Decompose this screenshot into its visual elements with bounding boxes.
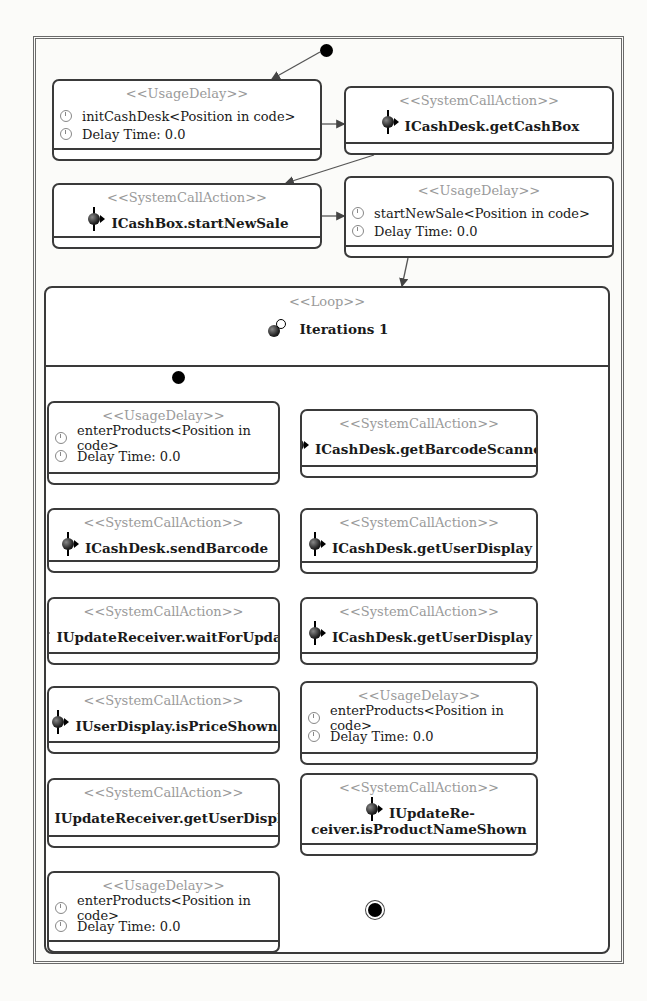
system-call-icon <box>49 710 71 734</box>
system-call-get-user-display-1[interactable]: <<SystemCallAction>> ICashDesk.getUserDi… <box>300 508 538 574</box>
loop-iterations: Iterations 1 <box>300 321 389 337</box>
usage-delay-start-new-sale[interactable]: <<UsageDelay>> startNewSale<Position in … <box>344 176 614 258</box>
call-name: ICashDesk.getUserDisplay <box>332 540 532 556</box>
system-call-icon <box>379 110 401 134</box>
stereotype-label: <<UsageDelay>> <box>54 86 320 101</box>
stereotype-label: <<SystemCallAction>> <box>54 190 320 205</box>
stereotype-label: <<SystemCallAction>> <box>302 515 536 530</box>
system-call-icon <box>47 621 52 645</box>
system-call-icon <box>85 207 107 231</box>
clock-icon <box>352 207 364 219</box>
system-call-icon <box>306 532 328 556</box>
clock-icon <box>55 902 67 914</box>
loop-initial-node <box>172 371 185 384</box>
usage-name: initCashDesk<Position in code> <box>82 109 295 124</box>
call-name: IUpdateReceiver.waitForUpdate <box>56 629 280 645</box>
system-call-icon <box>47 802 50 826</box>
system-call-start-new-sale[interactable]: <<SystemCallAction>> ICashBox.startNewSa… <box>52 183 322 249</box>
system-call-wait-for-update[interactable]: <<SystemCallAction>> IUpdateReceiver.wai… <box>47 597 280 665</box>
system-call-icon <box>300 433 311 457</box>
stereotype-label: <<UsageDelay>> <box>49 408 278 423</box>
usage-delay-enter-products-3[interactable]: <<UsageDelay>> enterProducts<Position in… <box>47 871 280 953</box>
system-call-get-cash-box[interactable]: <<SystemCallAction>> ICashDesk.getCashBo… <box>344 86 614 155</box>
clock-icon <box>308 730 320 742</box>
system-call-icon <box>363 797 385 821</box>
delay-time: Delay Time: 0.0 <box>77 919 181 934</box>
clock-icon <box>308 712 320 724</box>
stereotype-label: <<SystemCallAction>> <box>302 780 536 795</box>
clock-icon <box>55 432 67 444</box>
call-name: ICashBox.startNewSale <box>111 215 288 231</box>
stereotype-label: <<SystemCallAction>> <box>49 785 278 800</box>
stereotype-label: <<SystemCallAction>> <box>302 416 536 431</box>
call-name: ICashDesk.getCashBox <box>405 118 580 134</box>
call-name-line2: ceiver.isProductNameShown <box>302 821 536 837</box>
clock-icon <box>60 110 72 122</box>
system-call-icon <box>306 621 328 645</box>
call-name: IUpdateReceiver.getUserDisplay <box>54 810 280 826</box>
delay-time: Delay Time: 0.0 <box>374 224 478 239</box>
clock-icon <box>60 128 72 140</box>
stereotype-label: <<SystemCallAction>> <box>346 93 612 108</box>
usage-delay-enter-products-2[interactable]: <<UsageDelay>> enterProducts<Position in… <box>300 681 538 765</box>
system-call-update-receiver-get-user-display[interactable]: <<SystemCallAction>> IUpdateReceiver.get… <box>47 778 280 848</box>
call-name-line1: IUpdateRe- <box>389 805 475 821</box>
stereotype-label: <<UsageDelay>> <box>346 183 612 198</box>
call-name: ICashDesk.getBarcodeScanner <box>315 441 538 457</box>
delay-time: Delay Time: 0.0 <box>77 449 181 464</box>
system-call-icon <box>59 532 81 556</box>
system-call-is-price-shown[interactable]: <<SystemCallAction>> IUserDisplay.isPric… <box>47 686 280 754</box>
call-name: IUserDisplay.isPriceShown <box>75 718 277 734</box>
stereotype-label: <<UsageDelay>> <box>302 688 536 703</box>
loop-icon <box>266 319 288 339</box>
call-name: ICashDesk.getUserDisplay <box>332 629 532 645</box>
system-call-is-product-name-shown[interactable]: <<SystemCallAction>> IUpdateRe- ceiver.i… <box>300 773 538 856</box>
clock-icon <box>55 450 67 462</box>
usage-name: startNewSale<Position in code> <box>374 206 590 221</box>
system-call-get-user-display-2[interactable]: <<SystemCallAction>> ICashDesk.getUserDi… <box>300 597 538 665</box>
usage-delay-init-cash-desk[interactable]: <<UsageDelay>> initCashDesk<Position in … <box>52 79 322 161</box>
loop-stereotype: <<Loop>> <box>46 294 608 309</box>
clock-icon <box>55 920 67 932</box>
final-node <box>368 903 382 917</box>
system-call-send-barcode[interactable]: <<SystemCallAction>> ICashDesk.sendBarco… <box>47 508 280 573</box>
stereotype-label: <<UsageDelay>> <box>49 878 278 893</box>
call-name: ICashDesk.sendBarcode <box>85 540 268 556</box>
stereotype-label: <<SystemCallAction>> <box>49 515 278 530</box>
stereotype-label: <<SystemCallAction>> <box>49 604 278 619</box>
stereotype-label: <<SystemCallAction>> <box>302 604 536 619</box>
delay-time: Delay Time: 0.0 <box>82 127 186 142</box>
system-call-get-barcode-scanner[interactable]: <<SystemCallAction>> ICashDesk.getBarcod… <box>300 409 538 478</box>
delay-time: Delay Time: 0.0 <box>330 729 434 744</box>
usage-delay-enter-products-1[interactable]: <<UsageDelay>> enterProducts<Position in… <box>47 401 280 485</box>
initial-node <box>320 44 333 57</box>
clock-icon <box>352 225 364 237</box>
stereotype-label: <<SystemCallAction>> <box>49 693 278 708</box>
